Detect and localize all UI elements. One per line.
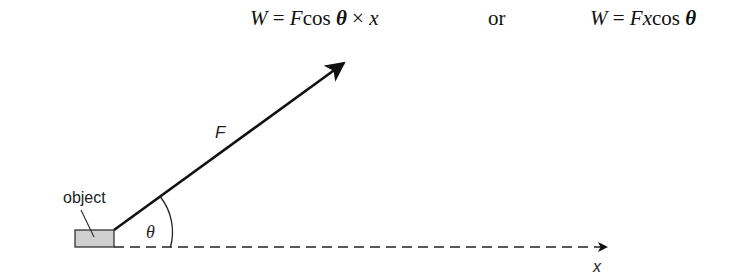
angle-arc — [161, 197, 173, 247]
angle-label: θ — [146, 222, 155, 242]
force-arrow — [114, 63, 344, 230]
object-box — [75, 230, 114, 247]
force-diagram: object F x θ — [0, 0, 729, 274]
displacement-label: x — [592, 258, 602, 274]
force-label: F — [215, 123, 227, 142]
object-label: object — [63, 189, 106, 206]
